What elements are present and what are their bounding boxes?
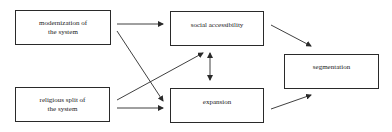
node-label: expansion bbox=[203, 98, 231, 107]
node-label: modernization of the system bbox=[39, 19, 87, 37]
node-social-accessibility: social accessibility bbox=[170, 11, 264, 46]
node-expansion: expansion bbox=[170, 88, 264, 123]
node-religious-split-of-the-system: religious split of the system bbox=[15, 87, 110, 122]
arrow-social-to-segmentation bbox=[271, 25, 311, 46]
arrow-modernization-to-expansion bbox=[117, 31, 163, 101]
node-label: segmentation bbox=[313, 63, 350, 72]
node-segmentation: segmentation bbox=[284, 54, 379, 89]
node-label: social accessibility bbox=[191, 21, 244, 30]
arrow-expansion-to-segmentation bbox=[271, 95, 311, 109]
node-label: religious split of the system bbox=[40, 96, 86, 114]
node-modernization-of-the-system: modernization of the system bbox=[15, 10, 111, 45]
